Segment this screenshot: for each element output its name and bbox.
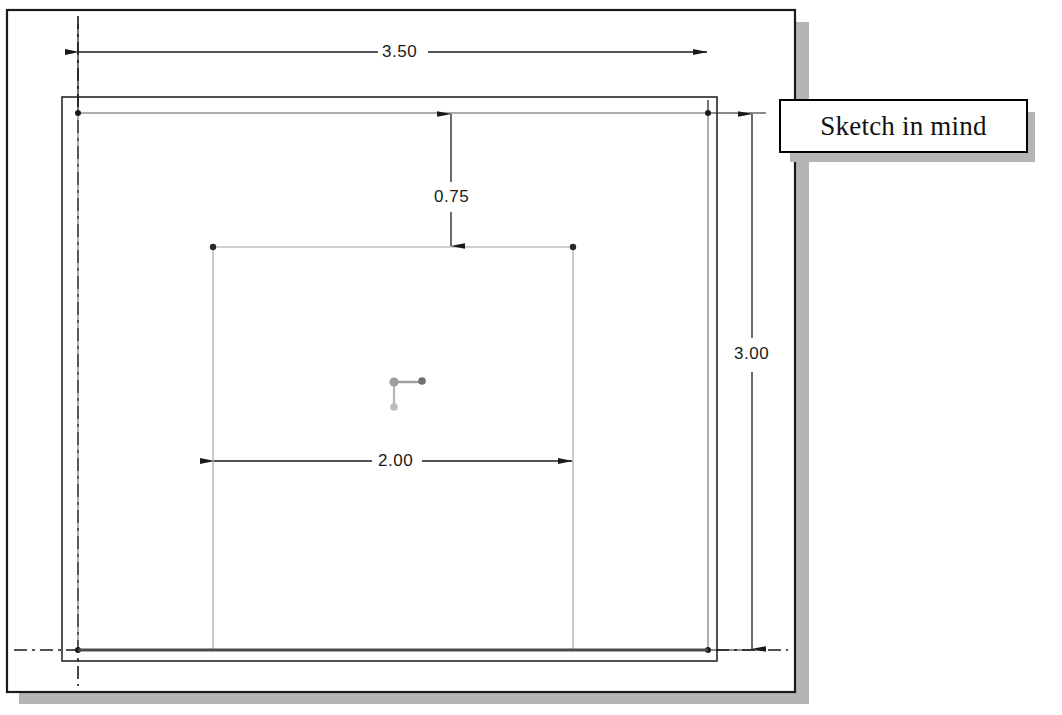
dimension-label-3-50[interactable]: 3.50 [378,42,421,62]
dimension-label-3-00[interactable]: 3.00 [730,344,773,364]
callout-label: Sketch in mind [820,111,986,142]
dimension-label-0-75[interactable]: 0.75 [430,187,473,207]
outer-frame [7,10,795,692]
dimension-label-2-00[interactable]: 2.00 [374,451,417,471]
cad-viewport[interactable]: 3.50 0.75 3.00 2.00 Sketch in mind [0,0,1062,715]
callout-box[interactable]: Sketch in mind [779,99,1028,153]
